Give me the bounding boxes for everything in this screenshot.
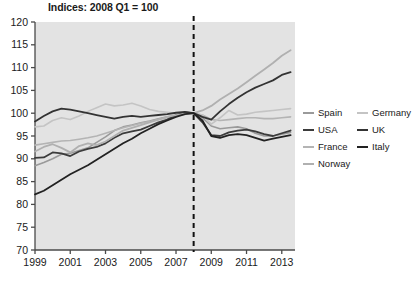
legend-item-france[interactable]: France bbox=[303, 142, 357, 152]
line-chart-svg: 7075808590951001051101151201999200120032… bbox=[0, 14, 300, 266]
chart-figure: Indices: 2008 Q1 = 100 70758085909510010… bbox=[0, 0, 420, 282]
x-axis-tick-label: 2005 bbox=[129, 256, 153, 266]
x-axis-tick-label: 2003 bbox=[94, 256, 118, 266]
legend-swatch-icon bbox=[303, 112, 314, 114]
legend-swatch-icon bbox=[357, 146, 368, 148]
legend-item-label: Italy bbox=[372, 142, 389, 152]
x-axis-tick-label: 2007 bbox=[164, 256, 188, 266]
chart-legend: SpainGermanyUSAUKFranceItalyNorway bbox=[303, 104, 420, 172]
legend-swatch-icon bbox=[303, 163, 314, 165]
plot-background bbox=[35, 22, 295, 250]
legend-item-label: Germany bbox=[372, 108, 411, 118]
y-axis-tick-label: 95 bbox=[16, 130, 28, 142]
legend-item-label: France bbox=[318, 142, 348, 152]
legend-swatch-icon bbox=[357, 129, 368, 131]
y-axis-tick-label: 80 bbox=[16, 198, 28, 210]
chart-title: Indices: 2008 Q1 = 100 bbox=[48, 1, 158, 13]
y-axis-tick-label: 115 bbox=[11, 38, 28, 50]
y-axis-tick-label: 85 bbox=[16, 175, 28, 187]
legend-swatch-icon bbox=[303, 129, 314, 131]
legend-item-italy[interactable]: Italy bbox=[357, 142, 420, 152]
x-axis-tick-label: 2013 bbox=[270, 256, 294, 266]
y-axis-tick-label: 110 bbox=[11, 61, 28, 73]
y-axis-tick-label: 105 bbox=[10, 84, 28, 96]
legend-item-spain[interactable]: Spain bbox=[303, 108, 357, 118]
x-axis-tick-label: 2009 bbox=[200, 256, 224, 266]
y-axis-tick-label: 75 bbox=[16, 221, 28, 233]
legend-item-germany[interactable]: Germany bbox=[357, 108, 420, 118]
legend-item-uk[interactable]: UK bbox=[357, 125, 420, 135]
legend-swatch-icon bbox=[357, 112, 368, 114]
legend-item-norway[interactable]: Norway bbox=[303, 159, 357, 169]
y-axis-tick-label: 70 bbox=[16, 244, 28, 256]
legend-item-label: UK bbox=[372, 125, 385, 135]
legend-swatch-icon bbox=[303, 146, 314, 148]
y-axis-tick-label: 90 bbox=[16, 152, 28, 164]
legend-item-usa[interactable]: USA bbox=[303, 125, 357, 135]
y-axis-tick-label: 120 bbox=[10, 16, 28, 28]
x-axis-tick-label: 2001 bbox=[59, 256, 83, 266]
legend-item-label: Spain bbox=[318, 108, 342, 118]
x-axis-tick-label: 1999 bbox=[23, 256, 47, 266]
legend-item-label: USA bbox=[318, 125, 338, 135]
x-axis-tick-label: 2011 bbox=[235, 256, 258, 266]
legend-item-label: Norway bbox=[318, 159, 350, 169]
plot-area: 7075808590951001051101151201999200120032… bbox=[0, 14, 300, 266]
y-axis-tick-label: 100 bbox=[10, 107, 28, 119]
